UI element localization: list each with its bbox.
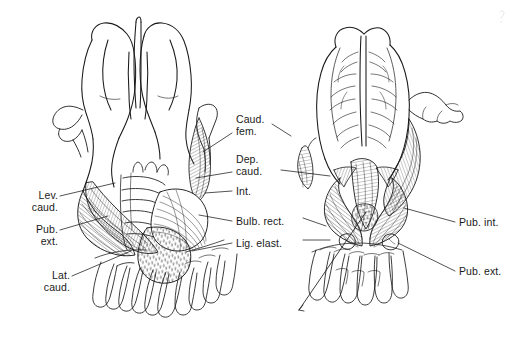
label-caud-fem-line1: Caud.	[236, 113, 265, 125]
label-bulb-rect-text: Bulb. rect.	[236, 215, 284, 227]
label-pub-int-right-text: Pub. int.	[459, 216, 498, 228]
label-bulb-rect: Bulb. rect.	[236, 216, 284, 228]
label-lev-caud: Lev. caud.	[8, 190, 58, 213]
label-lig-elast-text: Lig. elast.	[236, 237, 282, 249]
depressor-caudae-fans	[324, 159, 407, 247]
antitrochanter-left	[53, 106, 88, 157]
anatomical-figure: Lev. caud. Pub. ext. Lat. caud. Caud. fe…	[0, 0, 522, 345]
label-dep-caud: Dep. caud.	[236, 154, 262, 177]
label-pub-ext-left: Pub. ext.	[8, 224, 58, 247]
label-pub-ext-right: Pub. ext.	[459, 266, 501, 278]
label-lat-caud-line2: caud.	[20, 282, 70, 294]
label-lig-elast: Lig. elast.	[236, 238, 282, 250]
label-lat-caud: Lat. caud.	[20, 270, 70, 293]
label-int: Int.	[236, 186, 251, 198]
leader-bulb-rect-b	[303, 218, 326, 226]
label-dep-caud-line2: caud.	[236, 166, 262, 178]
label-pub-ext-left-line1: Pub.	[36, 223, 58, 235]
scan-artifact	[500, 11, 504, 23]
label-int-text: Int.	[236, 185, 251, 197]
label-pub-ext-right-text: Pub. ext.	[459, 265, 501, 277]
ventral-view-panel	[298, 27, 463, 311]
leader-caud-fem-b	[272, 124, 291, 136]
label-caud-fem-line2: fem.	[236, 126, 265, 138]
bone-spur-ventral-right	[409, 92, 463, 123]
label-lev-caud-line1: Lev.	[39, 189, 58, 201]
leader-pub-int	[404, 208, 455, 222]
label-lev-caud-line2: caud.	[8, 202, 58, 214]
label-lat-caud-line1: Lat.	[52, 269, 70, 281]
label-dep-caud-line1: Dep.	[236, 153, 259, 165]
label-pub-int-right: Pub. int.	[459, 217, 498, 229]
label-pub-ext-left-line2: ext.	[8, 236, 58, 248]
label-caud-fem: Caud. fem.	[236, 114, 265, 137]
caudofemoralis-muscle-left-panel	[189, 118, 211, 202]
synsacrum-outline	[82, 17, 194, 191]
leader-pub-ext-right	[398, 243, 455, 271]
leader-int	[205, 191, 232, 193]
lateral-muscle-stub-left	[298, 138, 316, 189]
